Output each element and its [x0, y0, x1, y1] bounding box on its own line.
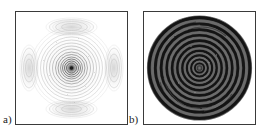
panel-a-plot-area [16, 12, 127, 124]
panel-a-label: a) [3, 114, 12, 125]
panel-b-plot-area [144, 12, 255, 124]
panel-b [143, 11, 256, 125]
panel-a [15, 11, 128, 125]
panel-a-pattern [16, 12, 127, 124]
panel-b-core [197, 65, 202, 70]
panel-b-label: b) [129, 114, 138, 125]
panel-b-pattern [144, 12, 255, 124]
figure-root: a) b) [0, 0, 263, 138]
